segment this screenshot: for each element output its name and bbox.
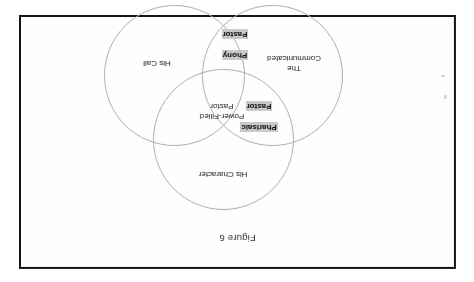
figure-caption: Figure 6: [21, 233, 454, 244]
venn-label-phony-pastor-line2: Pastor: [222, 29, 249, 40]
figure-border-frame: Figure 6 His Character The Communicated …: [19, 15, 456, 269]
venn-label-his-call: His Call: [117, 58, 197, 68]
scan-artifact-speck: [444, 95, 447, 99]
venn-label-phony-pastor-line1: Phony: [222, 50, 248, 61]
venn-label-pharisaic-pastor: Pharisaic Pastor: [224, 101, 294, 143]
venn-label-pharisaic-pastor-line2: Pastor: [246, 101, 273, 112]
scanned-page: Figure 6 His Character The Communicated …: [0, 0, 474, 282]
venn-label-phony-pastor: Phony Pastor: [204, 29, 266, 71]
venn-label-pharisaic-pastor-line1: Pharisaic: [240, 122, 278, 133]
scan-artifact-speck: [441, 75, 445, 77]
venn-diagram: His Character The Communicated His Call …: [71, 3, 361, 223]
venn-label-his-character: His Character: [177, 169, 269, 179]
page-rotation-wrapper: Figure 6 His Character The Communicated …: [0, 0, 474, 282]
